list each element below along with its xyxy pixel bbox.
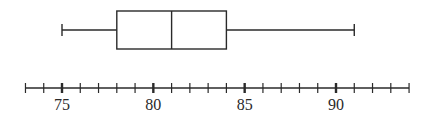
tick-label: 90 [328, 96, 344, 113]
tick-label: 85 [237, 96, 253, 113]
tick-label: 75 [54, 96, 70, 113]
boxplot-chart: 75808590 [0, 0, 435, 116]
box-plot [62, 11, 354, 49]
number-line-axis: 75808590 [25, 83, 409, 113]
tick-label: 80 [145, 96, 161, 113]
